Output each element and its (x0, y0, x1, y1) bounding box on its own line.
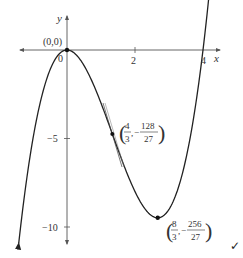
infl-x-denominator: 3 (125, 134, 130, 144)
x-axis-label: x (213, 52, 219, 64)
origin-tick-label: 0 (58, 53, 63, 64)
min-x-numerator: 8 (172, 219, 177, 229)
inflection-point-label: ( 4 3 , − 128 27 ) (119, 120, 165, 145)
x-tick-label-2: 2 (131, 55, 136, 66)
minimum-point-label: ( 8 3 , − 256 27 ) (166, 218, 212, 243)
y-axis-label: y (56, 12, 62, 24)
origin-point-label: (0,0) (43, 36, 62, 48)
checkmark-icon: ✓ (230, 239, 240, 253)
min-y-denominator: 27 (191, 232, 201, 242)
min-x-denominator: 3 (172, 232, 177, 242)
minimum-point-marker (156, 216, 160, 220)
inflection-point-marker (110, 132, 114, 136)
minus-sign: − (134, 127, 139, 137)
infl-y-numerator: 128 (141, 121, 155, 131)
comma: , (131, 128, 133, 138)
paren-close: ) (205, 218, 212, 243)
y-tick-label-m5: −5 (47, 133, 58, 144)
y-tick-label-m10: −10 (42, 222, 58, 233)
x-tick-label-4: 4 (201, 55, 206, 66)
comma: , (178, 226, 180, 236)
min-y-numerator: 256 (188, 219, 202, 229)
infl-y-denominator: 27 (144, 134, 154, 144)
cubic-graph: y x 0 2 4 −5 −10 (0,0) ( 4 3 , − 128 27 … (0, 0, 243, 258)
minus-sign: − (181, 225, 186, 235)
paren-close: ) (158, 120, 165, 145)
infl-x-numerator: 4 (125, 121, 130, 131)
origin-point-marker (65, 48, 69, 52)
